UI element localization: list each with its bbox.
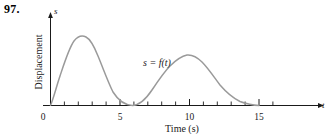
x-tick-label-10: 10 [185, 112, 195, 122]
y-axis-label: Displacement [33, 34, 44, 89]
x-tick-label-5: 5 [118, 112, 123, 122]
origin-tick-label: 0 [41, 112, 46, 122]
curve-equation-label: s = f(t) [143, 57, 172, 69]
x-axis-label: Time (s) [165, 123, 199, 134]
x-tick-label-15: 15 [254, 112, 264, 122]
textbook-figure: 97. [0, 0, 335, 134]
displacement-curve [51, 36, 260, 105]
x-axis-symbol: t [322, 100, 325, 110]
y-axis-symbol: s [54, 6, 58, 16]
displacement-time-plot: s t 0 5 10 15 Time (s) Displacement s = … [0, 0, 335, 134]
